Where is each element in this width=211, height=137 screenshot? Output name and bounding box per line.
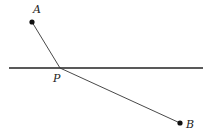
point-a-dot (29, 19, 34, 24)
point-b-dot (177, 120, 182, 125)
diagram-canvas: A P B (0, 0, 211, 137)
label-p: P (52, 72, 61, 85)
label-b: B (185, 118, 194, 131)
segment-a-p (32, 22, 60, 68)
label-a: A (32, 3, 41, 16)
segment-p-b (60, 68, 180, 123)
